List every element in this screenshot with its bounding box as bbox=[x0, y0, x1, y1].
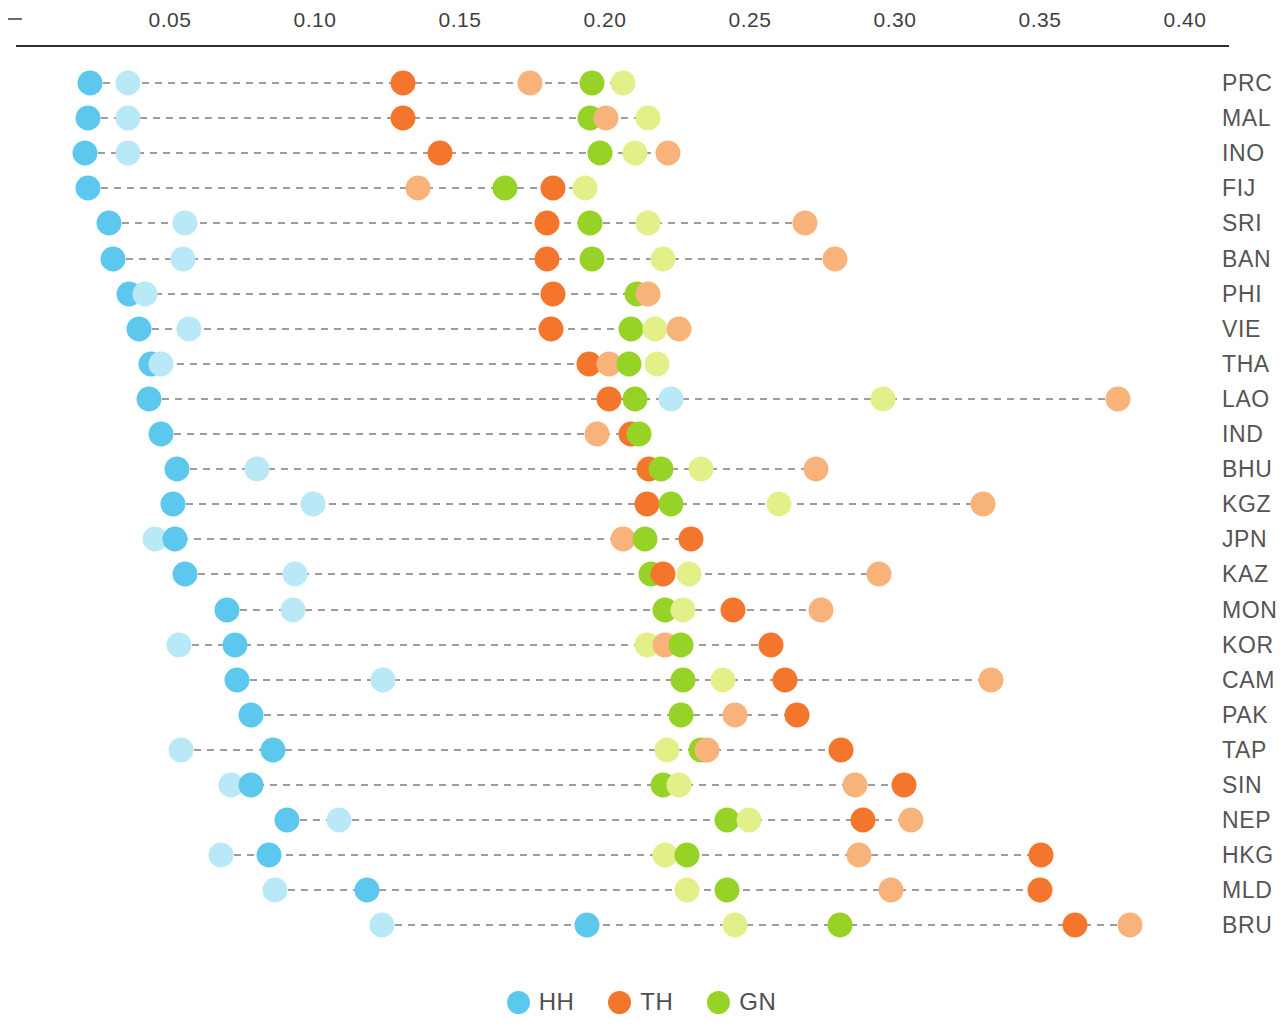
data-point-hh-light[interactable] bbox=[169, 737, 194, 762]
data-point-gn-light[interactable] bbox=[635, 211, 660, 236]
data-point-gn[interactable] bbox=[648, 457, 673, 482]
data-point-th[interactable] bbox=[541, 176, 566, 201]
data-point-hh[interactable] bbox=[137, 386, 162, 411]
data-point-hh-light[interactable] bbox=[177, 316, 202, 341]
data-point-hh[interactable] bbox=[75, 106, 100, 131]
legend-item-hh[interactable]: HH bbox=[507, 988, 575, 1016]
data-point-th-light[interactable] bbox=[842, 773, 867, 798]
data-point-gn[interactable] bbox=[668, 702, 693, 727]
data-point-gn[interactable] bbox=[579, 246, 604, 271]
data-point-th-light[interactable] bbox=[809, 597, 834, 622]
data-point-hh-light[interactable] bbox=[115, 71, 140, 96]
data-point-gn[interactable] bbox=[668, 632, 693, 657]
data-point-gn-light[interactable] bbox=[767, 492, 792, 517]
data-point-gn[interactable] bbox=[617, 351, 642, 376]
data-point-hh[interactable] bbox=[149, 422, 174, 447]
data-point-gn-light[interactable] bbox=[675, 878, 700, 903]
data-point-gn-light[interactable] bbox=[572, 176, 597, 201]
data-point-hh-light[interactable] bbox=[370, 667, 395, 692]
data-point-th-light[interactable] bbox=[655, 141, 680, 166]
data-point-hh[interactable] bbox=[173, 562, 198, 587]
data-point-gn-light[interactable] bbox=[622, 141, 647, 166]
data-point-hh-light[interactable] bbox=[245, 457, 270, 482]
data-point-gn-light[interactable] bbox=[736, 808, 761, 833]
data-point-gn-light[interactable] bbox=[688, 457, 713, 482]
data-point-th[interactable] bbox=[541, 281, 566, 306]
data-point-hh[interactable] bbox=[75, 176, 100, 201]
data-point-th[interactable] bbox=[1028, 878, 1053, 903]
data-point-gn[interactable] bbox=[715, 878, 740, 903]
data-point-th[interactable] bbox=[773, 667, 798, 692]
data-point-th[interactable] bbox=[635, 492, 660, 517]
data-point-th[interactable] bbox=[535, 246, 560, 271]
data-point-hh[interactable] bbox=[238, 702, 263, 727]
data-point-gn[interactable] bbox=[633, 527, 658, 552]
data-point-th[interactable] bbox=[535, 211, 560, 236]
data-point-hh-light[interactable] bbox=[280, 597, 305, 622]
data-point-th[interactable] bbox=[1028, 843, 1053, 868]
data-point-th-light[interactable] bbox=[1117, 913, 1142, 938]
data-point-gn[interactable] bbox=[671, 667, 696, 692]
data-point-hh-light[interactable] bbox=[327, 808, 352, 833]
data-point-hh-light[interactable] bbox=[171, 246, 196, 271]
data-point-hh[interactable] bbox=[164, 457, 189, 482]
data-point-th-light[interactable] bbox=[970, 492, 995, 517]
data-point-th[interactable] bbox=[678, 527, 703, 552]
data-point-hh[interactable] bbox=[256, 843, 281, 868]
data-point-th-light[interactable] bbox=[593, 106, 618, 131]
data-point-hh[interactable] bbox=[575, 913, 600, 938]
data-point-hh-light[interactable] bbox=[115, 141, 140, 166]
data-point-gn-light[interactable] bbox=[677, 562, 702, 587]
data-point-gn[interactable] bbox=[577, 211, 602, 236]
data-point-th[interactable] bbox=[784, 702, 809, 727]
data-point-hh[interactable] bbox=[100, 246, 125, 271]
data-point-hh-light[interactable] bbox=[149, 351, 174, 376]
data-point-th-light[interactable] bbox=[635, 281, 660, 306]
data-point-hh-light[interactable] bbox=[209, 843, 234, 868]
data-point-hh[interactable] bbox=[73, 141, 98, 166]
data-point-gn-light[interactable] bbox=[651, 246, 676, 271]
data-point-hh[interactable] bbox=[222, 632, 247, 657]
data-point-hh-light[interactable] bbox=[133, 281, 158, 306]
data-point-th-light[interactable] bbox=[978, 667, 1003, 692]
data-point-gn[interactable] bbox=[579, 71, 604, 96]
data-point-th[interactable] bbox=[539, 316, 564, 341]
data-point-gn-light[interactable] bbox=[644, 351, 669, 376]
data-point-th-light[interactable] bbox=[1106, 386, 1131, 411]
data-point-th-light[interactable] bbox=[867, 562, 892, 587]
data-point-hh-light[interactable] bbox=[173, 211, 198, 236]
data-point-th[interactable] bbox=[720, 597, 745, 622]
data-point-hh-light[interactable] bbox=[166, 632, 191, 657]
data-point-hh[interactable] bbox=[77, 71, 102, 96]
data-point-hh[interactable] bbox=[126, 316, 151, 341]
data-point-hh[interactable] bbox=[224, 667, 249, 692]
data-point-gn-light[interactable] bbox=[722, 913, 747, 938]
data-point-gn[interactable] bbox=[622, 386, 647, 411]
data-point-hh[interactable] bbox=[160, 492, 185, 517]
data-point-hh[interactable] bbox=[260, 737, 285, 762]
data-point-th-light[interactable] bbox=[898, 808, 923, 833]
data-point-th[interactable] bbox=[651, 562, 676, 587]
data-point-th[interactable] bbox=[851, 808, 876, 833]
data-point-gn-light[interactable] bbox=[871, 386, 896, 411]
data-point-th[interactable] bbox=[829, 737, 854, 762]
data-point-gn[interactable] bbox=[619, 316, 644, 341]
data-point-th[interactable] bbox=[758, 632, 783, 657]
data-point-gn[interactable] bbox=[659, 492, 684, 517]
data-point-gn[interactable] bbox=[626, 422, 651, 447]
data-point-gn[interactable] bbox=[675, 843, 700, 868]
data-point-th-light[interactable] bbox=[822, 246, 847, 271]
data-point-th-light[interactable] bbox=[847, 843, 872, 868]
data-point-th-light[interactable] bbox=[517, 71, 542, 96]
data-point-gn[interactable] bbox=[492, 176, 517, 201]
data-point-gn-light[interactable] bbox=[655, 737, 680, 762]
data-point-th-light[interactable] bbox=[695, 737, 720, 762]
data-point-th-light[interactable] bbox=[584, 422, 609, 447]
legend-item-gn[interactable]: GN bbox=[707, 988, 776, 1016]
data-point-gn-light[interactable] bbox=[635, 106, 660, 131]
legend-item-th[interactable]: TH bbox=[608, 988, 673, 1016]
data-point-th-light[interactable] bbox=[666, 316, 691, 341]
data-point-th-light[interactable] bbox=[804, 457, 829, 482]
data-point-th-light[interactable] bbox=[405, 176, 430, 201]
data-point-hh[interactable] bbox=[238, 773, 263, 798]
